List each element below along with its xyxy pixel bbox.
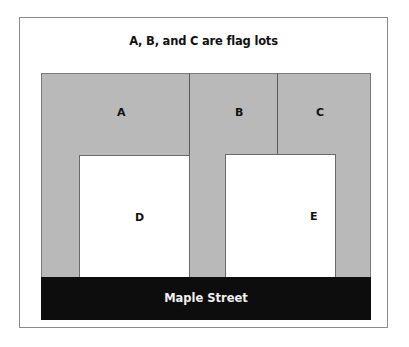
lot-c-label: C <box>316 106 324 119</box>
lot-e: E <box>225 154 336 278</box>
lots-area: D E A B C <box>41 73 371 278</box>
diagram-title: A, B, and C are flag lots <box>19 34 388 48</box>
divider-b-c <box>277 74 278 155</box>
lot-d: D <box>79 155 190 278</box>
street-label: Maple Street <box>41 291 371 305</box>
maple-street: Maple Street <box>41 277 371 320</box>
lot-a-label: A <box>117 106 126 119</box>
lot-b-label: B <box>235 106 243 119</box>
lot-e-label: E <box>310 210 318 223</box>
lot-d-label: D <box>135 211 144 224</box>
